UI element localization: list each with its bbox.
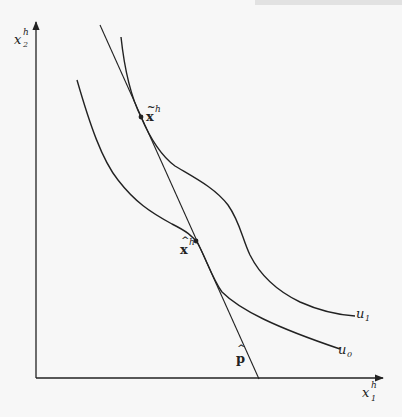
svg-text:h: h bbox=[23, 27, 29, 37]
svg-text:^: ^ bbox=[237, 342, 245, 353]
indifference-curve-u0 bbox=[77, 80, 340, 349]
svg-text:u: u bbox=[338, 342, 346, 357]
svg-text:h: h bbox=[371, 380, 377, 390]
point-x-tilde bbox=[139, 115, 144, 120]
svg-text:h: h bbox=[155, 104, 161, 114]
point-x-tilde-label: x ~ h bbox=[146, 101, 161, 124]
point-x-hat-label: x ^ h bbox=[180, 234, 195, 257]
svg-text:0: 0 bbox=[347, 350, 352, 359]
budget-line bbox=[100, 25, 259, 379]
svg-text:p: p bbox=[236, 351, 245, 366]
svg-text:h: h bbox=[189, 237, 195, 247]
svg-text:x: x bbox=[362, 385, 370, 400]
u1-label: u 1 bbox=[356, 306, 370, 323]
svg-text:x: x bbox=[14, 32, 22, 47]
u0-label: u 0 bbox=[338, 342, 352, 359]
indifference-curve-diagram: x h 2 x h 1 u 1 u 0 p ^ x ~ h x ^ h bbox=[0, 0, 402, 417]
svg-text:1: 1 bbox=[371, 394, 376, 403]
x-axis-label: x h 1 bbox=[362, 380, 377, 403]
indifference-curve-u1 bbox=[121, 37, 355, 316]
price-vector-label: p ^ bbox=[236, 342, 245, 366]
svg-text:u: u bbox=[356, 306, 364, 321]
y-axis-label: x h 2 bbox=[14, 27, 29, 49]
svg-text:2: 2 bbox=[22, 40, 28, 49]
svg-text:1: 1 bbox=[365, 314, 370, 323]
